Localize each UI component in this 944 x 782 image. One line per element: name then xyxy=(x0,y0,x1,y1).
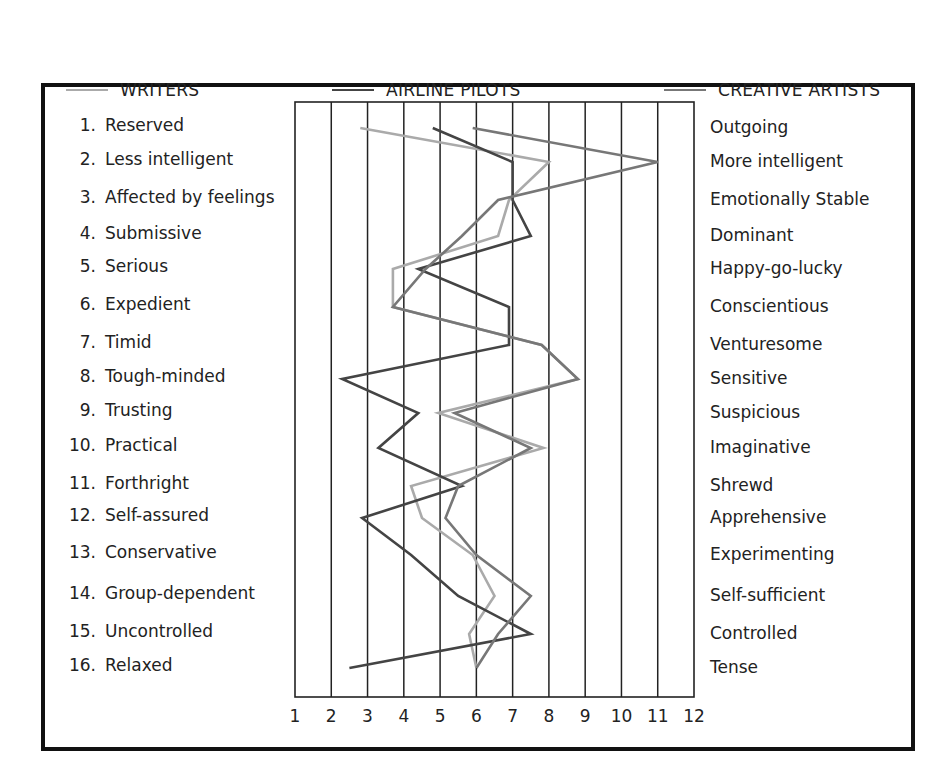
plot-lines xyxy=(342,128,658,668)
profile-plot xyxy=(0,0,944,782)
series-line-creative-artists xyxy=(393,128,658,668)
series-line-writers xyxy=(360,128,578,668)
